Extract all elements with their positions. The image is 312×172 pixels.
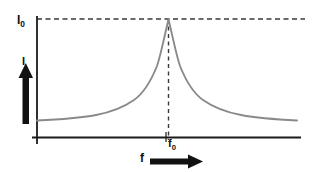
peak-level-label: I0 — [17, 14, 25, 29]
resonance-frequency-label: f0 — [168, 138, 176, 152]
x-axis-label: f — [140, 152, 144, 164]
resonance-curve-figure — [0, 0, 312, 172]
y-axis-label: I — [22, 56, 25, 67]
figure-background — [0, 0, 312, 172]
